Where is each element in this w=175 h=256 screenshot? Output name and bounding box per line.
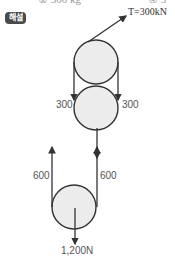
force-label-lower-left: 600	[33, 170, 50, 181]
load-label: 1,200N	[61, 245, 93, 256]
tension-arrow	[88, 16, 126, 42]
top-pulley	[74, 40, 118, 84]
tension-label: T=300kN	[128, 6, 167, 17]
force-label-lower-right: 600	[100, 170, 117, 181]
bottom-pulley	[52, 185, 96, 229]
force-label-upper-left: 300	[56, 99, 73, 110]
force-label-upper-right: 300	[122, 99, 139, 110]
middle-pulley	[74, 86, 118, 130]
